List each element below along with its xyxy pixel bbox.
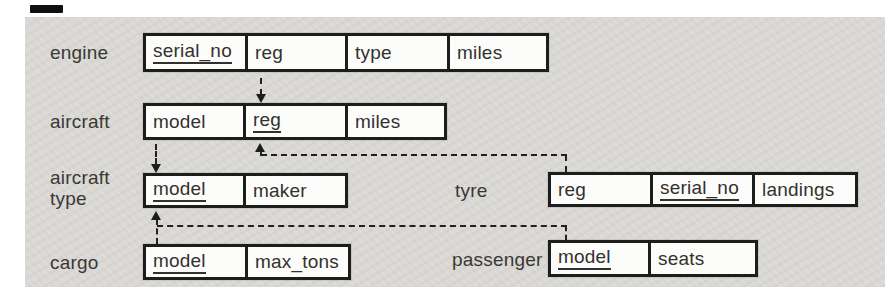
fk-passenger-horizontal-line [157,225,567,227]
field-name: maker [253,181,307,201]
field-name: landings [762,180,834,200]
field-aircraft-type-model: model [146,176,246,205]
field-name: model [153,179,206,202]
field-name: serial_no [153,41,232,64]
fk-engine-reg-arrowhead-icon [256,94,266,103]
field-name: seats [658,249,704,269]
table-label-tyre: tyre [455,180,487,201]
field-name: reg [255,43,283,63]
field-cargo-max-tons: max_tons [248,247,348,277]
field-aircraft-reg: reg [246,106,348,137]
schema-diagram: engine serial_no reg type miles aircraft… [0,0,895,305]
table-passenger: model seats [548,240,758,277]
field-name: miles [355,112,400,132]
field-engine-serial-no: serial_no [146,36,248,69]
table-label-aircraft-type-line1: aircraft [50,167,110,188]
fk-passenger-drop-line [565,226,567,240]
field-aircraft-model: model [146,106,246,137]
field-name: max_tons [255,252,339,272]
table-label-engine: engine [50,42,108,63]
table-label-aircraft-type-line2: type [50,188,110,209]
table-tyre: reg serial_no landings [548,172,858,207]
field-engine-type: type [348,36,450,69]
fk-cargo-model-line [156,219,158,244]
fk-engine-reg-line [260,78,262,95]
diagram-panel: engine serial_no reg type miles aircraft… [25,17,885,287]
fk-aircraft-model-line [155,144,157,164]
field-engine-reg: reg [248,36,348,69]
table-label-passenger: passenger [452,249,543,270]
field-passenger-model: model [551,243,651,274]
fk-aircraft-model-arrowhead-icon [151,164,161,173]
table-cargo: model max_tons [143,244,351,280]
field-tyre-serial-no: serial_no [653,175,755,204]
table-label-aircraft: aircraft [50,111,110,132]
table-engine: serial_no reg type miles [143,33,549,72]
field-cargo-model: model [146,247,248,277]
field-name: reg [253,110,281,133]
scan-artifact-mark [30,5,63,13]
table-aircraft: model reg miles [143,103,447,140]
field-name: type [355,43,392,63]
field-name: miles [457,43,502,63]
table-aircraft-type: model maker [143,173,348,208]
field-passenger-seats: seats [651,243,755,274]
field-name: serial_no [660,178,739,201]
field-name: model [558,247,611,270]
field-aircraft-miles: miles [348,106,444,137]
fk-tyre-reg-drop-line [565,155,567,172]
field-engine-miles: miles [450,36,546,69]
field-name: model [153,251,206,274]
field-name: model [153,112,206,132]
table-label-aircraft-type: aircraft type [50,167,110,209]
table-label-cargo: cargo [50,252,99,273]
field-aircraft-type-maker: maker [246,176,345,205]
field-tyre-landings: landings [755,175,855,204]
fk-tyre-reg-horizontal-line [261,154,567,156]
field-name: reg [558,180,586,200]
field-tyre-reg: reg [551,175,653,204]
